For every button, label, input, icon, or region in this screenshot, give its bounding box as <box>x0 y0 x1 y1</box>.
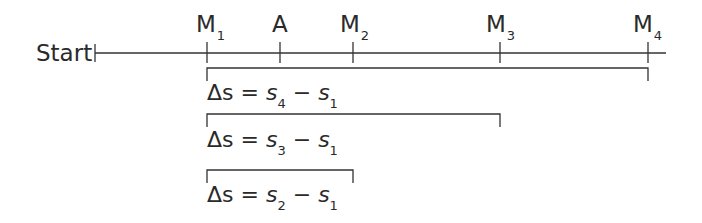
equation-s4-s1: Δs = s4 − s1 <box>207 82 338 104</box>
marker-a: A <box>272 13 288 36</box>
equation-s2-s1: Δs = s2 − s1 <box>207 184 338 206</box>
marker-m1: M1 <box>196 13 225 36</box>
start-label: Start <box>36 42 92 65</box>
marker-m3: M3 <box>486 13 515 36</box>
marker-m2: M2 <box>340 13 369 36</box>
equation-s3-s1: Δs = s3 − s1 <box>207 129 338 151</box>
marker-m4: M4 <box>633 13 662 36</box>
bracket-s3-s1 <box>207 114 500 127</box>
